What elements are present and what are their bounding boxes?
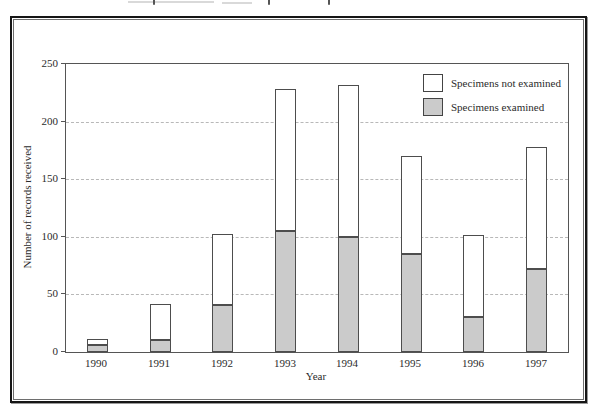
plot-area: Specimens not examined Specimens examine… — [65, 63, 569, 353]
bar-1996-examined — [463, 317, 484, 352]
x-tick-label-1994: 1994 — [325, 357, 369, 369]
y-tick-label-200: 200 — [26, 116, 58, 127]
legend-label-examined: Specimens examined — [451, 101, 544, 113]
bar-1994-not-examined — [338, 85, 359, 237]
x-tick-label-1997: 1997 — [514, 357, 558, 369]
bar-1993-examined — [275, 231, 296, 352]
gridline-100 — [66, 237, 568, 238]
y-tick-label-0: 0 — [26, 346, 58, 357]
bar-1991-not-examined — [150, 304, 171, 340]
bar-1992-not-examined — [212, 234, 233, 305]
gridline-50 — [66, 294, 568, 295]
figure-canvas: Number of records received 0501001502002… — [0, 0, 601, 418]
x-tick-label-1992: 1992 — [200, 357, 244, 369]
x-tick-label-1996: 1996 — [451, 357, 495, 369]
y-axis-title: Number of records received — [21, 145, 33, 268]
legend-swatch-examined — [423, 98, 443, 116]
bar-1990-not-examined — [87, 339, 108, 345]
gridline-150 — [66, 179, 568, 180]
x-axis-title: Year — [306, 370, 326, 382]
bar-1992-examined — [212, 305, 233, 352]
legend-swatch-not-examined — [423, 74, 443, 92]
bar-1997-examined — [526, 269, 547, 352]
bar-1990-examined — [87, 345, 108, 352]
x-tick-label-1991: 1991 — [137, 357, 181, 369]
y-tick-label-150: 150 — [26, 173, 58, 184]
bar-1997-not-examined — [526, 147, 547, 269]
x-tick-label-1990: 1990 — [74, 357, 118, 369]
bar-1991-examined — [150, 340, 171, 352]
gridline-200 — [66, 122, 568, 123]
x-tick-label-1995: 1995 — [388, 357, 432, 369]
y-tick-label-250: 250 — [26, 58, 58, 69]
legend-label-not-examined: Specimens not examined — [451, 77, 561, 89]
bar-1995-not-examined — [401, 156, 422, 254]
y-tick-label-100: 100 — [26, 231, 58, 242]
bar-1996-not-examined — [463, 235, 484, 317]
x-tick-label-1993: 1993 — [263, 357, 307, 369]
bar-1993-not-examined — [275, 89, 296, 231]
bar-1994-examined — [338, 237, 359, 352]
y-tick-label-50: 50 — [26, 288, 58, 299]
bar-1995-examined — [401, 254, 422, 352]
